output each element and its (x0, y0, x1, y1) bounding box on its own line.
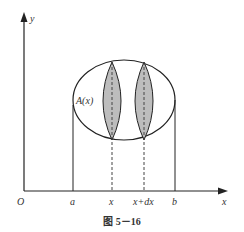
y-axis-label: y (29, 13, 35, 24)
volume-by-slices-diagram: y x O A(x) a x x+dx b 图 5－16 (0, 0, 244, 232)
tick-label-a: a (70, 196, 75, 207)
figure-caption: 图 5－16 (103, 216, 141, 227)
cross-section-x-dx (135, 62, 153, 191)
tick-label-x: x (108, 196, 114, 207)
x-axis: x O (17, 188, 228, 208)
x-axis-arrow-icon (218, 188, 228, 195)
cross-section-x (103, 62, 121, 191)
x-axis-label: x (221, 196, 227, 207)
tick-label-x-dx: x+dx (132, 196, 154, 207)
origin-label: O (17, 196, 24, 207)
y-axis-arrow-icon (21, 12, 28, 22)
area-function-label: A(x) (75, 95, 94, 107)
tick-label-b: b (172, 196, 177, 207)
y-axis: y (21, 12, 36, 191)
